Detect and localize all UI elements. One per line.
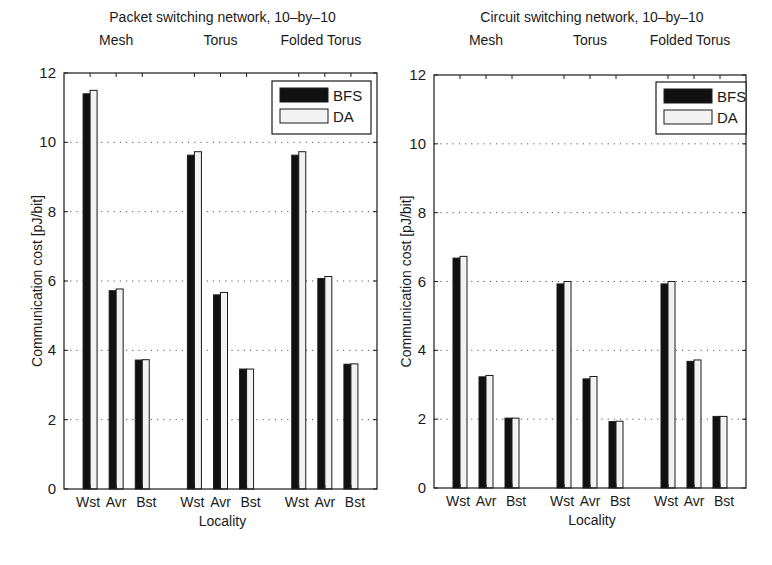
group-label: Folded Torus xyxy=(280,32,361,48)
bar-da xyxy=(142,360,149,489)
x-tick-label: Wst xyxy=(446,493,470,509)
group-label: Mesh xyxy=(99,32,133,48)
bar-bfs xyxy=(505,418,512,488)
bar-da xyxy=(590,376,597,488)
bar-da xyxy=(668,282,675,489)
bar-da xyxy=(299,152,306,489)
x-tick-label: Avr xyxy=(684,493,705,509)
bar-bfs xyxy=(187,155,194,489)
chart-title: Circuit switching network, 10–by–10 xyxy=(480,9,704,25)
legend-label: BFS xyxy=(717,88,746,105)
bar-da xyxy=(564,282,571,489)
group-label: Torus xyxy=(203,32,237,48)
x-tick-label: Bst xyxy=(714,493,734,509)
bar-bfs xyxy=(109,291,116,489)
legend-label: DA xyxy=(717,109,738,126)
y-tick-label: 4 xyxy=(418,341,426,358)
x-tick-label: Avr xyxy=(314,494,335,510)
y-tick-label: 0 xyxy=(418,479,426,496)
bar-da xyxy=(460,256,467,488)
x-tick-label: Avr xyxy=(106,494,127,510)
legend-swatch-bfs xyxy=(280,88,328,102)
group-label: Mesh xyxy=(469,32,503,48)
y-tick-label: 2 xyxy=(418,410,426,427)
bar-bfs xyxy=(687,361,694,488)
x-tick-label: Bst xyxy=(345,494,365,510)
legend-swatch-da xyxy=(664,110,712,124)
x-tick-label: Bst xyxy=(506,493,526,509)
legend-label: DA xyxy=(333,108,354,125)
x-axis-label: Locality xyxy=(199,513,246,529)
y-tick-label: 12 xyxy=(409,66,426,83)
x-tick-label: Bst xyxy=(610,493,630,509)
y-axis-label: Communication cost [pJ/bit] xyxy=(29,195,45,367)
y-tick-label: 10 xyxy=(409,135,426,152)
figure-canvas: Packet switching network, 10–by–10MeshTo… xyxy=(0,0,772,565)
bar-bfs xyxy=(83,94,90,489)
x-tick-label: Wst xyxy=(285,494,309,510)
group-label: Torus xyxy=(573,32,607,48)
y-tick-label: 10 xyxy=(39,133,56,150)
legend: BFSDA xyxy=(272,81,371,134)
y-tick-label: 0 xyxy=(48,480,56,497)
x-axis-label: Locality xyxy=(568,512,615,528)
bar-bfs xyxy=(557,284,564,488)
bar-da xyxy=(694,360,701,488)
y-tick-label: 8 xyxy=(418,204,426,221)
y-tick-label: 2 xyxy=(48,411,56,428)
bar-da xyxy=(351,364,358,489)
bar-da xyxy=(486,375,493,488)
bar-bfs xyxy=(583,379,590,488)
bar-da xyxy=(720,416,727,488)
bar-da xyxy=(194,152,201,489)
legend-swatch-bfs xyxy=(664,89,712,103)
circuit-switching-chart: Circuit switching network, 10–by–10MeshT… xyxy=(398,9,746,528)
bar-da xyxy=(90,90,97,489)
bar-da xyxy=(116,289,123,489)
legend: BFSDA xyxy=(656,82,746,134)
bar-bfs xyxy=(609,422,616,488)
legend-swatch-da xyxy=(280,109,328,123)
bar-bfs xyxy=(453,258,460,488)
bar-bfs xyxy=(214,295,221,489)
x-tick-label: Bst xyxy=(240,494,260,510)
chart-title: Packet switching network, 10–by–10 xyxy=(109,9,336,25)
figure: Packet switching network, 10–by–10MeshTo… xyxy=(0,0,772,565)
y-tick-label: 12 xyxy=(39,64,56,81)
bar-bfs xyxy=(479,377,486,488)
x-tick-label: Bst xyxy=(136,494,156,510)
x-tick-label: Avr xyxy=(210,494,231,510)
x-tick-label: Wst xyxy=(550,493,574,509)
packet-switching-chart: Packet switching network, 10–by–10MeshTo… xyxy=(29,9,377,529)
x-tick-label: Wst xyxy=(180,494,204,510)
x-tick-label: Avr xyxy=(580,493,601,509)
y-tick-label: 6 xyxy=(418,273,426,290)
bar-bfs xyxy=(661,284,668,488)
bar-da xyxy=(616,421,623,488)
bar-bfs xyxy=(344,364,351,489)
y-tick-label: 6 xyxy=(48,272,56,289)
x-tick-label: Avr xyxy=(476,493,497,509)
bar-bfs xyxy=(240,369,247,489)
bar-bfs xyxy=(318,279,325,489)
bar-bfs xyxy=(135,360,142,489)
group-label: Folded Torus xyxy=(650,32,731,48)
bar-bfs xyxy=(292,155,299,489)
y-tick-label: 4 xyxy=(48,341,56,358)
y-axis-label: Communication cost [pJ/bit] xyxy=(398,196,414,368)
y-tick-label: 8 xyxy=(48,203,56,220)
bar-bfs xyxy=(713,416,720,488)
bar-da xyxy=(221,292,228,489)
bar-da xyxy=(325,276,332,489)
legend-label: BFS xyxy=(333,87,362,104)
bar-da xyxy=(247,369,254,489)
bar-da xyxy=(512,418,519,488)
x-tick-label: Wst xyxy=(654,493,678,509)
x-tick-label: Wst xyxy=(76,494,100,510)
